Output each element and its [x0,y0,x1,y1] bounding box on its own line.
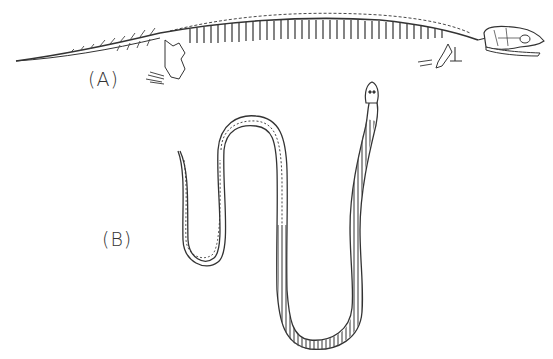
skeleton-b [178,82,378,349]
panel-label-a: (A) [88,68,119,90]
skeleton-illustration [0,0,553,359]
figure: (A) (B) [0,0,553,359]
panel-label-b: (B) [102,228,132,250]
